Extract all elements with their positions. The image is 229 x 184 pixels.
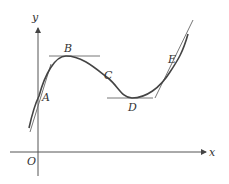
origin-label: O bbox=[27, 155, 36, 168]
point-label-d: D bbox=[127, 101, 137, 114]
point-label-b: B bbox=[63, 42, 72, 55]
y-axis-label: y bbox=[31, 11, 39, 24]
point-label-a: A bbox=[41, 91, 50, 104]
graph-svg: y x O A B C D E bbox=[0, 0, 229, 184]
point-label-e: E bbox=[167, 53, 176, 66]
x-axis-label: x bbox=[209, 146, 216, 159]
function-graph-diagram: y x O A B C D E bbox=[0, 0, 229, 184]
point-label-c: C bbox=[104, 69, 113, 82]
